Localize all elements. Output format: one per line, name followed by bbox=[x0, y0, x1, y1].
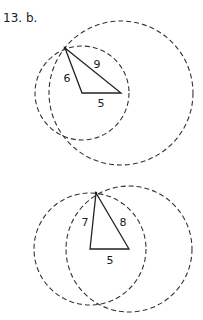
side-label-right: 9 bbox=[94, 58, 101, 71]
side-label-right: 8 bbox=[120, 216, 127, 229]
diagram-canvas: 6 9 5 7 8 5 bbox=[0, 0, 203, 320]
side-label-base: 5 bbox=[98, 97, 105, 110]
apex-point bbox=[64, 47, 67, 50]
side-label-left: 7 bbox=[82, 216, 89, 229]
apex-point bbox=[95, 192, 98, 195]
construction-1: 6 9 5 bbox=[35, 21, 193, 165]
construction-2: 7 8 5 bbox=[34, 186, 192, 312]
side-label-left: 6 bbox=[64, 72, 71, 85]
side-label-base: 5 bbox=[107, 254, 114, 267]
